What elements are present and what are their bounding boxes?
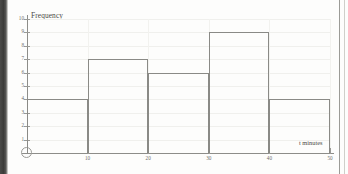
y-axis-tick (24, 46, 30, 47)
y-axis-tick-label-wrap: 4 (8, 96, 24, 97)
gridline-horizontal (27, 59, 330, 60)
histogram-bar (209, 32, 270, 153)
x-axis-tick-label: 40 (260, 156, 278, 161)
x-axis-tick-label: 30 (200, 156, 218, 161)
y-axis-tick-label-wrap: 1 (8, 137, 24, 138)
y-axis-tick-label: 6 (10, 70, 24, 75)
y-axis-tick-label: 5 (10, 83, 24, 88)
gridline-horizontal (27, 46, 330, 47)
gridline-vertical (330, 19, 331, 153)
y-axis-tick-label: 8 (10, 43, 24, 48)
x-axis-tick (330, 148, 331, 154)
histogram-bar (27, 99, 88, 153)
y-axis-tick (24, 73, 30, 74)
histogram-figure: Frequency t minutes 12345678910102030405… (0, 0, 348, 174)
histogram-bar (269, 99, 330, 153)
y-axis-tick-label-wrap: 9 (8, 29, 24, 30)
y-axis-tick-label: 3 (10, 110, 24, 115)
gridline-horizontal (27, 19, 330, 20)
gridline-horizontal (27, 32, 330, 33)
x-axis-line (22, 153, 334, 154)
y-axis-tick-label: 10 (10, 16, 24, 21)
y-axis-tick-label-wrap: 6 (8, 70, 24, 71)
y-axis-tick-label-wrap: 7 (8, 56, 24, 57)
x-axis-tick-label: 10 (79, 156, 97, 161)
y-axis-tick-label: 7 (10, 56, 24, 61)
histogram-bar (148, 73, 209, 153)
plot-area: Frequency t minutes 12345678910102030405… (0, 0, 348, 174)
y-axis-tick (24, 19, 30, 20)
y-axis-tick (24, 59, 30, 60)
y-axis-tick-label-wrap: 8 (8, 43, 24, 44)
y-axis-tick (24, 32, 30, 33)
y-axis-tick (24, 86, 30, 87)
y-axis-tick-label-wrap: 3 (8, 110, 24, 111)
y-axis-tick-label: 4 (10, 96, 24, 101)
y-axis-tick-label: 2 (10, 123, 24, 128)
y-axis-tick-label: 1 (10, 137, 24, 142)
y-axis-tick-label-wrap: 10 (8, 16, 24, 17)
x-axis-tick-label: 50 (321, 156, 339, 161)
y-axis-tick-label: 9 (10, 29, 24, 34)
y-axis-tick-label-wrap: 2 (8, 123, 24, 124)
y-axis-tick-label-wrap: 5 (8, 83, 24, 84)
histogram-bar (88, 59, 149, 153)
x-axis-tick-label: 20 (139, 156, 157, 161)
